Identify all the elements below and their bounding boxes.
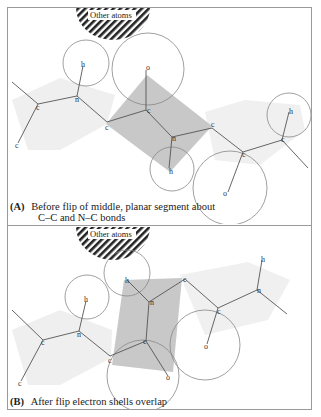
atom-o2: o xyxy=(204,342,208,351)
atom-c1: c xyxy=(15,141,19,150)
atom-c2: c xyxy=(36,103,40,112)
caption-b: (B) After flip electron shells overlap xyxy=(10,396,167,407)
atom-c4: c xyxy=(143,337,147,346)
atom-c3: c xyxy=(108,356,112,365)
atom-n2: n xyxy=(172,134,176,143)
atom-c1: c xyxy=(18,379,22,388)
caption-a-tag: (A) xyxy=(10,201,25,212)
atom-c7: c xyxy=(281,135,285,144)
caption-b-line1: After flip electron shells overlap xyxy=(31,396,167,407)
atom-h3: h xyxy=(289,107,293,116)
atom-c5: c xyxy=(211,120,215,129)
plane-left xyxy=(12,310,112,385)
panel-b: Other atoms c c n h c xyxy=(12,227,290,412)
caption-a-line2: C–C and N–C bonds xyxy=(38,212,125,223)
plane-left xyxy=(12,78,115,150)
atom-h2: h xyxy=(169,167,173,176)
atom-h1: h xyxy=(84,295,88,304)
atom-n2: n xyxy=(150,298,154,307)
other-atoms-label: Other atoms xyxy=(90,10,132,20)
atom-n1: n xyxy=(77,330,81,339)
atom-c6: c xyxy=(242,150,246,159)
caption-b-tag: (B) xyxy=(10,396,24,407)
atom-c3: c xyxy=(105,123,109,132)
shell-h1 xyxy=(63,40,109,86)
atom-n3: n xyxy=(257,286,261,295)
atom-c4: c xyxy=(147,106,151,115)
atom-o1: o xyxy=(166,373,170,382)
atom-c6: c xyxy=(217,307,221,316)
atom-c2: c xyxy=(41,338,45,347)
plane-right xyxy=(180,262,290,335)
atom-c5: c xyxy=(183,275,187,284)
panel-a: Other atoms c xyxy=(12,8,311,225)
other-atoms-label: Other atoms xyxy=(90,229,132,239)
atom-o2: o xyxy=(223,189,227,198)
atom-h1: h xyxy=(81,60,85,69)
caption-a-line1: Before flip of middle, planar segment ab… xyxy=(31,201,215,212)
atom-h3: h xyxy=(261,255,265,264)
atom-h2: h xyxy=(125,276,129,285)
caption-a: (A) Before flip of middle, planar segmen… xyxy=(10,201,215,223)
atom-o1: o xyxy=(146,63,150,72)
atom-n1: n xyxy=(75,95,79,104)
